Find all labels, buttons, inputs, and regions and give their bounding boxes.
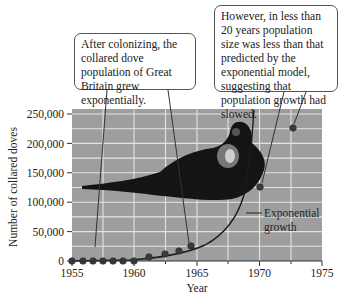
callout-growth-slowed: However, in less than 20 years populatio… (214, 5, 338, 92)
svg-text:1960: 1960 (123, 267, 146, 279)
x-axis-title: Year (186, 282, 207, 294)
y-tick-labels: 0 50,000 100,000 150,000 200,000 250,000 (27, 108, 65, 267)
svg-text:200,000: 200,000 (27, 138, 65, 151)
svg-text:100,000: 100,000 (27, 196, 65, 209)
curve-label-line2: growth (264, 221, 297, 234)
curve-label-line1: Exponential (264, 207, 320, 220)
svg-text:50,000: 50,000 (32, 226, 64, 239)
callout-exponential-growth: After colonizing, the collared dove popu… (74, 33, 196, 90)
svg-text:0: 0 (58, 255, 64, 267)
svg-text:250,000: 250,000 (27, 108, 65, 121)
svg-text:1975: 1975 (311, 267, 334, 279)
y-axis-title: Number of collared doves (7, 127, 19, 247)
svg-text:1970: 1970 (248, 267, 271, 279)
svg-text:1965: 1965 (186, 267, 209, 279)
x-tick-labels: 1955 1960 1965 1970 1975 (61, 267, 334, 279)
svg-text:1955: 1955 (61, 267, 84, 279)
svg-text:150,000: 150,000 (27, 167, 65, 180)
